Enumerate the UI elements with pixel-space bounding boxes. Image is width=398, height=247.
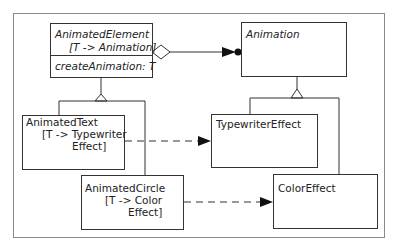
class-binding: [T -> Color <box>105 194 162 206</box>
class-animated-element[interactable]: AnimatedElement [T -> Animation] createA… <box>50 23 153 78</box>
class-color-effect[interactable]: ColorEffect <box>273 174 378 229</box>
class-name: AnimatedElement <box>55 28 149 40</box>
class-animation[interactable]: Animation <box>241 22 347 77</box>
class-name: TypewriterEffect <box>216 118 301 130</box>
class-binding: Effect] <box>72 140 106 152</box>
class-name: AnimatedText <box>26 116 98 128</box>
class-operation: createAnimation: T <box>55 60 155 72</box>
class-typewriter-effect[interactable]: TypewriterEffect <box>211 114 318 168</box>
class-animated-circle[interactable]: AnimatedCircle [T -> Color Effect] <box>81 175 184 230</box>
class-binding: Effect] <box>128 206 162 218</box>
class-name: Animation <box>246 28 300 40</box>
compartment-divider <box>51 55 152 56</box>
class-name: ColorEffect <box>278 182 336 194</box>
class-binding: [T -> Typewriter <box>42 128 127 140</box>
class-name: AnimatedCircle <box>85 182 165 194</box>
class-animated-text[interactable]: AnimatedText [T -> Typewriter Effect] <box>22 115 125 170</box>
class-template-param: [T -> Animation] <box>69 41 156 53</box>
